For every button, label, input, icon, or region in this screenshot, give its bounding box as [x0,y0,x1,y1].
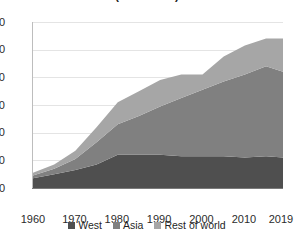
area-series-svg [33,22,283,188]
legend-label: Rest of world [164,220,225,231]
y-axis-tick-40: 40 [0,127,5,138]
legend-item-rest-of-world[interactable]: Rest of world [154,220,225,231]
legend-label: Asia [123,220,143,231]
y-axis-line [32,22,33,188]
chart-title: (in million t) [0,0,294,2]
legend-item-asia[interactable]: Asia [113,220,143,231]
y-axis-tick-60: 60 [0,100,5,111]
y-axis-tick-0: 0 [0,183,5,194]
plot-area: 1960 1970 1980 1990 2000 2010 2019 [33,22,283,188]
y-axis-tick-20: 20 [0,155,5,166]
stacked-area-chart: (in million t) 120 100 80 60 40 20 0 196… [0,0,294,234]
legend-label: West [78,220,102,231]
chart-legend: WestAsiaRest of world [0,220,294,231]
series-container [33,22,283,188]
legend-swatch-icon [68,222,75,229]
legend-item-west[interactable]: West [68,220,102,231]
legend-swatch-icon [113,222,120,229]
legend-swatch-icon [154,222,161,229]
y-axis-tick-80: 80 [0,72,5,83]
y-axis-tick-120: 120 [0,17,5,28]
x-axis-line [32,188,283,189]
y-axis-tick-100: 100 [0,44,5,55]
